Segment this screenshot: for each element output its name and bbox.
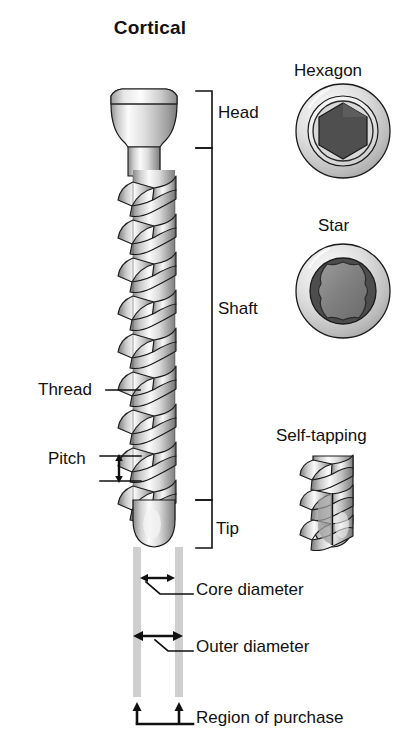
label-core-diameter: Core diameter <box>196 581 304 598</box>
right-bracket-group <box>196 91 212 548</box>
guide-band-left <box>133 547 141 697</box>
label-outer-diameter: Outer diameter <box>196 638 309 655</box>
label-pitch: Pitch <box>48 450 86 467</box>
screw-threaded-shaft <box>118 170 176 522</box>
screw-body-illustration <box>111 89 183 697</box>
screw-head <box>111 89 177 176</box>
outer-diameter-dimension <box>133 631 193 651</box>
star-socket <box>319 262 368 320</box>
region-of-purchase-dimension <box>133 702 194 724</box>
shaft-bracket <box>196 148 212 500</box>
self-tapping-illustration <box>300 455 353 551</box>
tip-bracket <box>196 500 212 548</box>
label-region-of-purchase: Region of purchase <box>196 709 343 726</box>
label-shaft: Shaft <box>218 300 258 317</box>
label-head: Head <box>218 104 259 121</box>
star-drive-illustration <box>296 244 390 338</box>
head-bracket <box>196 91 212 148</box>
label-hexagon: Hexagon <box>294 62 362 79</box>
guide-band-right <box>175 547 183 697</box>
label-thread: Thread <box>38 381 92 398</box>
label-tip: Tip <box>216 520 239 537</box>
label-star: Star <box>318 217 349 234</box>
core-diameter-dimension <box>140 574 193 594</box>
hexagon-drive-illustration <box>296 84 390 178</box>
label-self-tapping: Self-tapping <box>276 427 367 444</box>
screw-tip <box>133 500 175 547</box>
cortical-screw-figure <box>0 0 408 744</box>
figure-title: Cortical <box>0 18 300 37</box>
